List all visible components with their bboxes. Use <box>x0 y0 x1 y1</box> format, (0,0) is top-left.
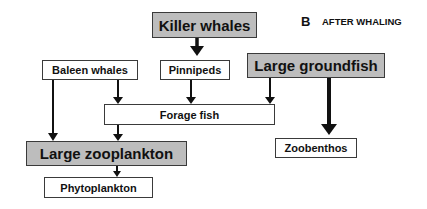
arrow-pinnipeds-to-forage-fish <box>186 80 196 104</box>
node-zoobenthos: Zoobenthos <box>275 138 357 158</box>
arrow-large-zooplankton-to-phytoplankton <box>113 166 121 177</box>
node-baleen-whales: Baleen whales <box>42 60 138 80</box>
arrow-large-groundfish-to-zoobenthos <box>321 78 337 135</box>
node-large-zooplankton: Large zooplankton <box>26 141 187 166</box>
arrow-large-groundfish-to-forage-fish <box>265 78 275 104</box>
node-phytoplankton: Phytoplankton <box>44 177 153 198</box>
node-pinnipeds: Pinnipeds <box>160 60 230 80</box>
node-large-groundfish: Large groundfish <box>247 53 385 78</box>
node-forage-fish: Forage fish <box>104 104 275 125</box>
arrow-baleen-whales-to-large-zooplankton <box>48 80 58 141</box>
panel-title: AFTER WHALING <box>322 16 402 27</box>
arrow-baleen-whales-to-forage-fish <box>113 80 123 104</box>
node-killer-whales: Killer whales <box>152 12 257 38</box>
arrow-killer-whales-to-pinnipeds <box>190 37 204 56</box>
panel-letter: B <box>301 14 310 29</box>
arrow-forage-fish-to-large-zooplankton <box>113 125 123 141</box>
